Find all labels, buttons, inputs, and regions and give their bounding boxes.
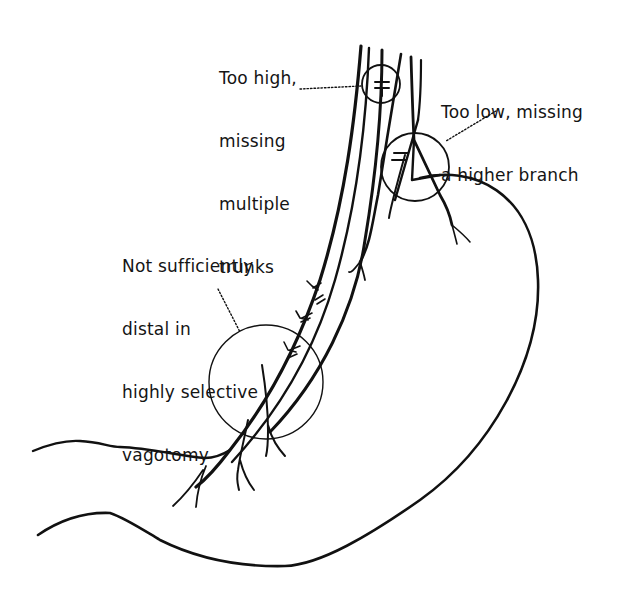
vagotomy-diagram: Too high, missing multiple trunks Too lo…	[0, 0, 617, 590]
label-line: highly selective	[122, 382, 258, 403]
leader-too-high	[300, 86, 361, 89]
label-line: distal in	[122, 319, 258, 340]
label-line: vagotomy	[122, 445, 258, 466]
label-line: Too high,	[219, 68, 297, 89]
label-too-low: Too low, missing a higher branch	[441, 60, 583, 228]
label-line: Too low, missing	[441, 102, 583, 123]
nerve-branch-left	[389, 155, 405, 218]
label-line: a higher branch	[441, 165, 583, 186]
label-line: missing	[219, 131, 297, 152]
nerve-trunk-6	[418, 60, 421, 120]
label-line: multiple	[219, 194, 297, 215]
label-not-distal: Not sufficiently distal in highly select…	[122, 214, 258, 508]
label-line: Not sufficiently	[122, 256, 258, 277]
